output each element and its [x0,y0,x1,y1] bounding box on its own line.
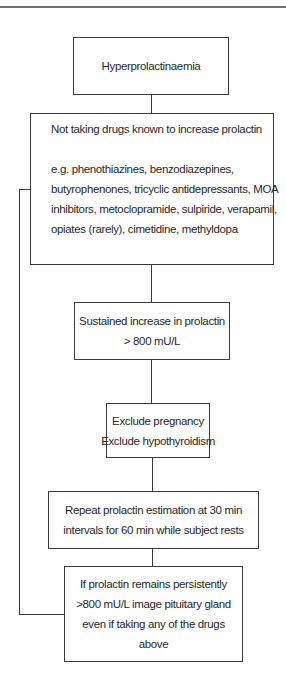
box-text: inhibitors, metoclopramide, sulpiride, v… [51,199,277,219]
box-text: Repeat prolactin estimation at 30 min [65,500,242,520]
bypass-connector-top [19,189,30,190]
box-exclusions: Exclude pregnancy Exclude hypothyroidism [106,403,210,458]
top-rule-divider [0,6,286,8]
connector-1-2 [151,95,152,113]
box-text: Exclude pregnancy [112,411,204,431]
box-sustained-increase: Sustained increase in prolactin > 800 mU… [74,302,230,360]
box-heading: Not taking drugs known to increase prola… [51,119,262,139]
box-text: > 800 mU/L [124,331,180,351]
bypass-connector-bottom [19,614,64,615]
box-text: >800 mU/L image pituitary gland [76,594,231,614]
connector-4-5 [152,457,153,491]
box-text: e.g. phenothiazines, benzodiazepines, [51,159,234,179]
box-text: If prolactin remains persistently [80,574,227,594]
connector-2-3 [151,264,152,302]
box-text: Hyperprolactinaemia [102,56,201,76]
box-image-pituitary: If prolactin remains persistently >800 m… [64,566,243,662]
bypass-connector-vertical [19,189,20,615]
box-text: Sustained increase in prolactin [79,311,225,331]
box-no-drugs: Not taking drugs known to increase prola… [30,113,274,265]
box-text: butyrophenones, tricyclic antidepressant… [51,179,278,199]
box-hyperprolactinaemia: Hyperprolactinaemia [73,37,229,95]
box-text: Exclude hypothyroidism [101,431,215,451]
box-text: opiates (rarely), cimetidine, methyldopa [51,219,238,239]
connector-3-4 [151,359,152,403]
box-text: above [139,634,169,654]
box-text: intervals for 60 min while subject rests [63,520,243,540]
box-text: even if taking any of the drugs [82,614,225,634]
connector-5-6 [152,548,153,566]
box-repeat-estimation: Repeat prolactin estimation at 30 min in… [48,491,259,549]
